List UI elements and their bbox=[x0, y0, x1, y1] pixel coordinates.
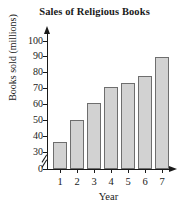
y-axis-tick-label: 80 bbox=[3, 67, 43, 77]
y-axis-tick-label: 50 bbox=[3, 115, 43, 125]
bar bbox=[138, 76, 152, 169]
y-axis-tick bbox=[43, 120, 48, 121]
bar bbox=[104, 87, 118, 169]
y-axis-tick-label: 90 bbox=[3, 51, 43, 61]
y-axis-tick-label: 30 bbox=[3, 147, 43, 157]
bar bbox=[53, 142, 67, 169]
y-axis-tick-label: 0 bbox=[3, 164, 43, 174]
y-axis-tick-label: 70 bbox=[3, 83, 43, 93]
y-axis-tick bbox=[43, 136, 48, 137]
x-axis-tick bbox=[162, 169, 163, 173]
y-axis-tick bbox=[43, 56, 48, 57]
x-axis-label: Year bbox=[47, 191, 170, 202]
y-axis-line bbox=[47, 33, 48, 169]
x-axis-tick bbox=[77, 169, 78, 173]
y-axis-tick bbox=[43, 152, 48, 153]
y-axis-tick-label: 40 bbox=[3, 131, 43, 141]
x-axis-tick bbox=[145, 169, 146, 173]
bar-chart: Sales of Religious Books Books sold (mil… bbox=[0, 0, 189, 208]
y-axis-arrow-icon bbox=[44, 26, 50, 34]
x-axis-line bbox=[47, 169, 170, 170]
bar bbox=[70, 120, 84, 169]
x-axis-tick-label: 7 bbox=[152, 176, 172, 187]
y-axis-tick bbox=[43, 169, 48, 170]
x-axis-tick bbox=[111, 169, 112, 173]
y-axis-tick bbox=[43, 104, 48, 105]
y-axis-tick bbox=[43, 88, 48, 89]
bar bbox=[121, 83, 135, 169]
y-axis-tick bbox=[43, 72, 48, 73]
x-axis-arrow-icon bbox=[169, 166, 177, 172]
bar bbox=[87, 103, 101, 169]
bar bbox=[155, 57, 169, 169]
y-axis-tick bbox=[43, 41, 48, 42]
x-axis-tick bbox=[94, 169, 95, 173]
x-axis-tick bbox=[60, 169, 61, 173]
plot-area: 030405060708090100 1234567 bbox=[0, 0, 189, 208]
y-axis-tick-label: 100 bbox=[3, 36, 43, 46]
y-axis-tick-label: 60 bbox=[3, 99, 43, 109]
x-axis-tick bbox=[128, 169, 129, 173]
